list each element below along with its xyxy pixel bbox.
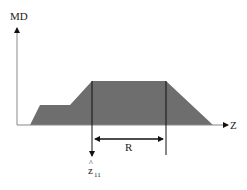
z11-label: z — [88, 164, 93, 176]
md-profile-diagram: MD Z R ^ z 11 — [0, 0, 247, 190]
md-profile-shape — [30, 81, 213, 125]
x-axis-label: Z — [230, 119, 237, 131]
z11-label-subscript: 11 — [94, 171, 101, 179]
y-axis-label: MD — [10, 10, 28, 22]
r-dimension-label: R — [125, 141, 133, 153]
